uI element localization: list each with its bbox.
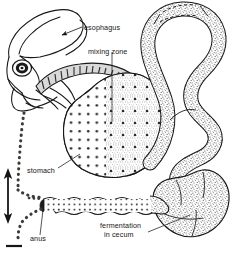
label-anus: anus	[30, 234, 46, 243]
label-fermentation-line2: in cecum	[104, 230, 134, 239]
dotted-reingestion-path-colon	[29, 198, 43, 199]
double-headed-vertical-arrow	[4, 168, 12, 224]
colon-contents-dots	[44, 199, 154, 212]
coiled-small-intestine	[148, 5, 219, 195]
colon-rectum	[44, 196, 169, 215]
digestive-tract-figure: esophagus mixing zone stomach anus ferme…	[0, 0, 235, 253]
dotted-reingestion-path	[18, 113, 44, 239]
eye	[13, 60, 32, 76]
label-stomach: stomach	[27, 166, 55, 175]
label-fermentation-line1: fermentation	[100, 221, 141, 230]
label-mixing-zone: mixing zone	[88, 47, 127, 56]
label-esophagus: esophagus	[84, 23, 120, 32]
